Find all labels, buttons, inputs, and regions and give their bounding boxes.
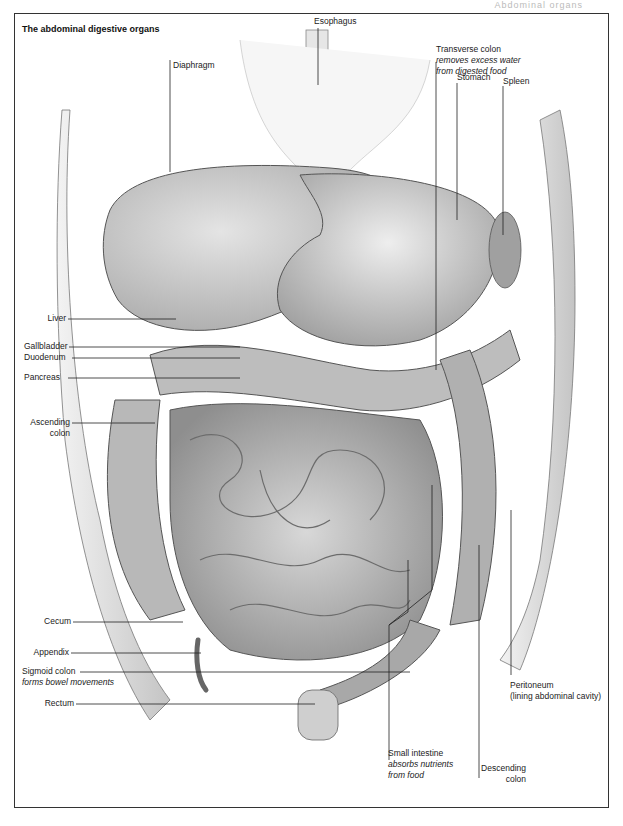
label-descending-colon-2: colon (476, 774, 526, 785)
label-descending-colon: Descending colon (476, 763, 526, 785)
label-gallbladder: Gallbladder (24, 341, 67, 352)
label-transverse-colon-note-1: removes excess water (436, 55, 521, 66)
label-peritoneum-name: Peritoneum (510, 680, 601, 691)
small-intestine-shape (170, 404, 443, 660)
spleen-shape (489, 212, 521, 288)
label-sigmoid-colon: Sigmoid colon forms bowel movements (22, 666, 114, 688)
label-cecum: Cecum (20, 616, 71, 627)
label-small-intestine-note-1: absorbs nutrients (388, 759, 453, 770)
label-transverse-colon-name: Transverse colon (436, 44, 501, 54)
label-pancreas: Pancreas (24, 372, 60, 383)
label-liver: Liver (20, 313, 66, 324)
label-sigmoid-colon-name: Sigmoid colon (22, 666, 75, 676)
label-small-intestine-note-2: from food (388, 770, 453, 781)
label-ascending-colon-2: colon (14, 428, 70, 439)
label-esophagus: Esophagus (314, 16, 357, 27)
anatomy-illustration (0, 0, 623, 826)
appendix-shape (197, 640, 206, 690)
label-sigmoid-colon-note: forms bowel movements (22, 677, 114, 688)
label-descending-colon-1: Descending (476, 763, 526, 774)
label-peritoneum: Peritoneum (lining abdominal cavity) (510, 680, 601, 702)
label-small-intestine: Small intestine absorbs nutrients from f… (388, 748, 453, 781)
label-diaphragm: Diaphragm (173, 60, 215, 71)
label-stomach: Stomach (457, 72, 491, 83)
label-rectum: Rectum (20, 698, 74, 709)
label-ascending-colon-1: Ascending (14, 417, 70, 428)
label-ascending-colon: Ascending colon (14, 417, 70, 439)
label-peritoneum-note: (lining abdominal cavity) (510, 691, 601, 702)
label-spleen: Spleen (503, 76, 529, 87)
label-appendix: Appendix (14, 647, 69, 658)
rectum-shape (298, 690, 338, 740)
label-duodenum: Duodenum (24, 352, 66, 363)
label-small-intestine-name: Small intestine (388, 748, 453, 759)
